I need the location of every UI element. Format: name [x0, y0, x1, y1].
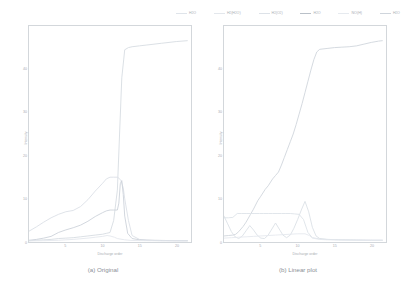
x-tick-label: 15	[138, 244, 142, 249]
legend-entry: H2O	[300, 11, 320, 16]
legend-label: H2O	[189, 11, 196, 16]
panel-linear-plot: 010203040 5101520 Intensity Discharge or…	[203, 22, 393, 254]
legend-label: H2O	[313, 11, 320, 16]
plot-area-original	[28, 25, 192, 243]
legend-entry: H2(O2)	[259, 11, 283, 16]
series-line	[224, 213, 382, 240]
panel-caption-linear: (b) Linear plot	[203, 265, 393, 274]
y-tick-label: 40	[14, 66, 27, 71]
x-tick-label: 5	[64, 244, 66, 249]
series-line	[224, 201, 382, 240]
x-tick-label: 20	[175, 244, 179, 249]
legend-entry: H2O	[176, 11, 196, 16]
legend-entry: H2(H2O)	[214, 11, 241, 16]
legend: H2O H2(H2O) H2(O2) H2O NO(H) H2O	[176, 6, 400, 20]
legend-label: H2(H2O)	[227, 11, 241, 16]
x-tick-label: 15	[333, 244, 337, 249]
y-tick-label: 40	[209, 66, 222, 71]
legend-label: H2O	[393, 11, 400, 16]
legend-label: H2(O2)	[272, 11, 283, 16]
x-tick-label: 5	[259, 244, 261, 249]
legend-swatch-icon	[214, 13, 225, 14]
legend-swatch-icon	[176, 13, 187, 14]
panel-caption-original: (a) Original	[8, 265, 198, 274]
y-tick-label: 0	[14, 241, 27, 246]
series-line	[224, 234, 382, 240]
x-tick-label: 10	[101, 244, 105, 249]
legend-swatch-icon	[338, 13, 349, 14]
legend-swatch-icon	[380, 13, 391, 14]
legend-entry: H2O	[380, 11, 400, 16]
series-line	[29, 177, 187, 241]
x-axis-ticks-linear: 5101520	[223, 244, 387, 252]
panel-original: 010203040 5101520 Intensity Discharge or…	[8, 22, 198, 254]
plot-area-linear	[223, 25, 387, 243]
series-line	[29, 181, 187, 241]
x-tick-label: 20	[370, 244, 374, 249]
x-axis-label-original: Discharge order	[28, 252, 192, 257]
plot-lines-linear	[224, 26, 386, 242]
plot-lines-original	[29, 26, 191, 242]
legend-label: NO(H)	[351, 11, 362, 16]
figure-canvas: H2O H2(H2O) H2(O2) H2O NO(H) H2O 0102030…	[0, 0, 403, 282]
x-tick-label: 10	[296, 244, 300, 249]
x-axis-label-linear: Discharge order	[223, 252, 387, 257]
legend-swatch-icon	[300, 13, 311, 14]
legend-entry: NO(H)	[338, 11, 362, 16]
y-tick-label: 10	[209, 197, 222, 202]
y-tick-label: 0	[209, 241, 222, 246]
y-tick-label: 10	[14, 197, 27, 202]
legend-swatch-icon	[259, 13, 270, 14]
x-axis-ticks-original: 5101520	[28, 244, 192, 252]
y-axis-label-original: Intensity	[24, 108, 29, 168]
y-axis-label-linear: Intensity	[219, 108, 224, 168]
